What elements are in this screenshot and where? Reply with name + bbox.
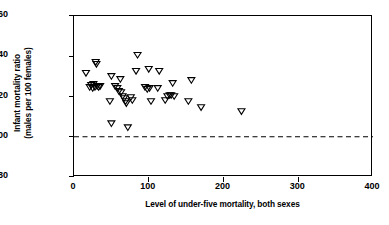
- data-point-marker: [188, 78, 195, 84]
- data-point-marker: [108, 121, 115, 127]
- scatter-chart-figure: Infant mortality ratio (males per 100 fe…: [0, 0, 389, 225]
- data-point-marker: [185, 99, 192, 105]
- y-axis-tick: [69, 176, 74, 177]
- y-axis-title-line-2: (males per 100 females): [23, 47, 34, 138]
- y-axis-tick-label: 140: [0, 50, 8, 59]
- data-point-marker: [82, 71, 89, 77]
- x-axis-tick-label: 100: [128, 182, 168, 191]
- data-point-marker: [147, 99, 154, 105]
- x-axis-tick-label: 0: [53, 182, 93, 191]
- data-point-marker: [238, 109, 245, 115]
- y-axis-tick-label: 80: [0, 171, 8, 180]
- y-axis-title: Infant mortality ratio (males per 100 fe…: [12, 47, 34, 138]
- x-axis-tick-label: 400: [352, 182, 389, 191]
- x-axis-tick-label: 200: [203, 182, 243, 191]
- data-point-marker: [156, 69, 163, 75]
- x-axis-title: Level of under-five mortality, both sexe…: [73, 199, 372, 209]
- y-axis-tick-label: 100: [0, 131, 8, 140]
- y-axis-tick: [69, 15, 74, 16]
- data-point-marker: [124, 125, 131, 131]
- x-axis-tick-label: 300: [277, 182, 317, 191]
- data-point-marker: [106, 99, 113, 105]
- y-axis-tick-label: 160: [0, 10, 8, 19]
- plot-canvas: [74, 16, 373, 177]
- data-point-marker: [133, 69, 140, 75]
- y-axis-tick-label: 120: [0, 91, 8, 100]
- data-point-marker: [154, 86, 161, 92]
- data-point-marker: [169, 81, 176, 87]
- data-point-marker: [145, 67, 152, 73]
- y-axis-title-line-1: Infant mortality ratio: [12, 53, 22, 131]
- data-point-marker: [134, 52, 141, 58]
- y-axis-tick: [69, 56, 74, 57]
- data-point-marker: [117, 77, 124, 83]
- data-point-marker: [108, 74, 115, 80]
- plot-area: [73, 15, 372, 176]
- y-axis-tick: [69, 136, 74, 137]
- data-point-marker: [198, 105, 205, 111]
- y-axis-tick: [69, 96, 74, 97]
- data-markers-group: [82, 52, 244, 130]
